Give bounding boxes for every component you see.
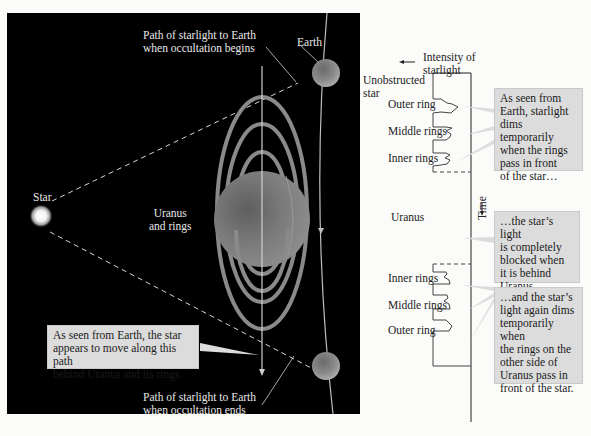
intensity-axis-label: Intensity of starlight [423,51,476,77]
orbit-arrow-icon [318,228,324,234]
path-begin-label: Path of starlight to Earth when occultat… [143,29,256,55]
uranus-graph-label: Uranus [391,211,424,224]
intensity-arrow-icon [399,60,404,64]
middle-rings-label-after: Middle rings [388,299,447,312]
uranus-rings-label: Uranus and rings [149,207,191,233]
outer-ring-label-before: Outer ring [388,98,436,111]
inner-rings-label-before: Inner rings [388,152,438,165]
path-arrowhead-icon [259,369,265,376]
callout-apparent-path: As seen from Earth, the star appears to … [47,325,199,369]
unobstructed-star-label: Unobstructed star [363,74,425,100]
time-axis-label: Time [476,196,488,220]
callout-blocked: …the star’s light is completely blocked … [494,211,580,283]
light-curve-after [433,264,471,366]
callout-dims: As seen from Earth, starlight dims tempo… [494,88,583,171]
outer-ring-label-after: Outer ring [388,324,436,337]
earth-bottom [312,352,340,380]
middle-rings-label-before: Middle rings [388,125,447,138]
inner-rings-label-after: Inner rings [388,272,438,285]
earth-label: Earth [297,36,322,49]
callout-again: …and the star’s light again dims tempora… [494,287,583,384]
earth-top [312,59,340,87]
star-icon [29,204,53,228]
star-label: Star [33,191,52,204]
callout-pointer [200,343,259,355]
path-end-label: Path of starlight to Earth when occultat… [143,391,256,417]
